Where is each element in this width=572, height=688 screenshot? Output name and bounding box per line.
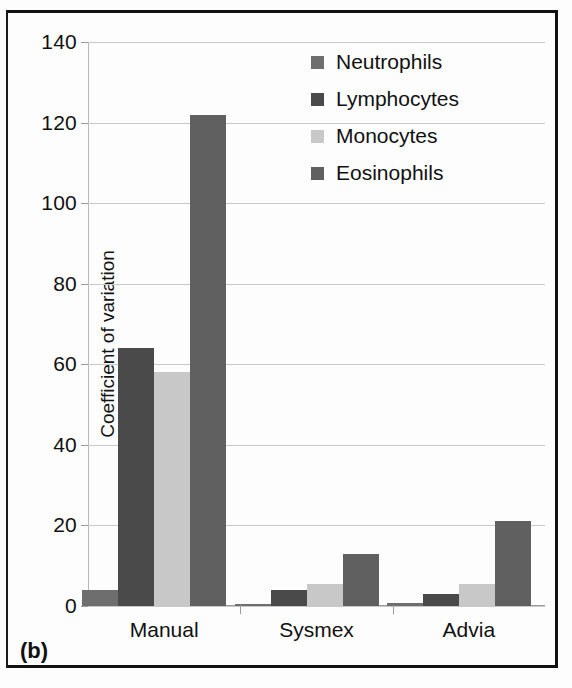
bar-manual-neutrophils xyxy=(82,590,118,606)
gridline-100 xyxy=(88,203,545,204)
chart-legend: NeutrophilsLymphocytesMonocytesEosinophi… xyxy=(311,50,459,185)
gridline-80 xyxy=(88,284,545,285)
figure-panel: Coefficient of variation 020406080100120… xyxy=(0,0,572,688)
y-tick-label-40: 40 xyxy=(53,433,77,457)
x-axis-separator-1 xyxy=(240,605,241,614)
legend-item-eosinophils: Eosinophils xyxy=(311,161,459,185)
legend-swatch-icon-eosinophils xyxy=(311,167,324,180)
y-tick-mark-120 xyxy=(81,123,88,124)
legend-label: Neutrophils xyxy=(336,50,442,74)
y-axis-line xyxy=(88,42,89,606)
y-tick-label-80: 80 xyxy=(53,272,77,296)
bar-manual-eosinophils xyxy=(190,115,226,606)
y-tick-label-20: 20 xyxy=(53,513,77,537)
gridline-140 xyxy=(88,42,545,43)
y-tick-label-140: 140 xyxy=(41,30,77,54)
bar-advia-monocytes xyxy=(459,584,495,606)
legend-item-neutrophils: Neutrophils xyxy=(311,50,459,74)
bar-sysmex-eosinophils xyxy=(343,554,379,606)
frame-border-right xyxy=(555,10,558,668)
y-tick-mark-140 xyxy=(81,42,88,43)
y-tick-mark-100 xyxy=(81,203,88,204)
y-tick-label-60: 60 xyxy=(53,352,77,376)
legend-swatch-icon-monocytes xyxy=(311,130,324,143)
gridline-0 xyxy=(88,606,545,607)
legend-label: Monocytes xyxy=(336,124,438,148)
bar-advia-lymphocytes xyxy=(423,594,459,606)
legend-label: Lymphocytes xyxy=(336,87,459,111)
bar-sysmex-monocytes xyxy=(307,584,343,606)
x-tick-label-sysmex: Sysmex xyxy=(279,618,354,642)
x-tick-label-manual: Manual xyxy=(130,618,199,642)
frame-border-bottom xyxy=(6,665,558,668)
bar-sysmex-lymphocytes xyxy=(271,590,307,606)
legend-label: Eosinophils xyxy=(336,161,443,185)
gridline-60 xyxy=(88,364,545,365)
figure-caption: (b) xyxy=(20,638,48,664)
legend-item-lymphocytes: Lymphocytes xyxy=(311,87,459,111)
frame-border-top xyxy=(6,10,558,13)
bar-manual-lymphocytes xyxy=(118,348,154,606)
y-tick-mark-80 xyxy=(81,284,88,285)
y-tick-label-100: 100 xyxy=(41,191,77,215)
frame-border-left xyxy=(6,10,8,668)
x-axis-separator-2 xyxy=(393,605,394,614)
legend-swatch-icon-neutrophils xyxy=(311,56,324,69)
bar-advia-eosinophils xyxy=(495,521,531,606)
legend-swatch-icon-lymphocytes xyxy=(311,93,324,106)
y-tick-mark-60 xyxy=(81,364,88,365)
y-tick-label-0: 0 xyxy=(65,594,77,618)
bar-manual-monocytes xyxy=(154,372,190,606)
y-tick-mark-40 xyxy=(81,445,88,446)
y-tick-mark-0 xyxy=(81,606,88,607)
y-tick-mark-20 xyxy=(81,525,88,526)
x-tick-label-advia: Advia xyxy=(443,618,496,642)
legend-item-monocytes: Monocytes xyxy=(311,124,459,148)
y-tick-label-120: 120 xyxy=(41,111,77,135)
